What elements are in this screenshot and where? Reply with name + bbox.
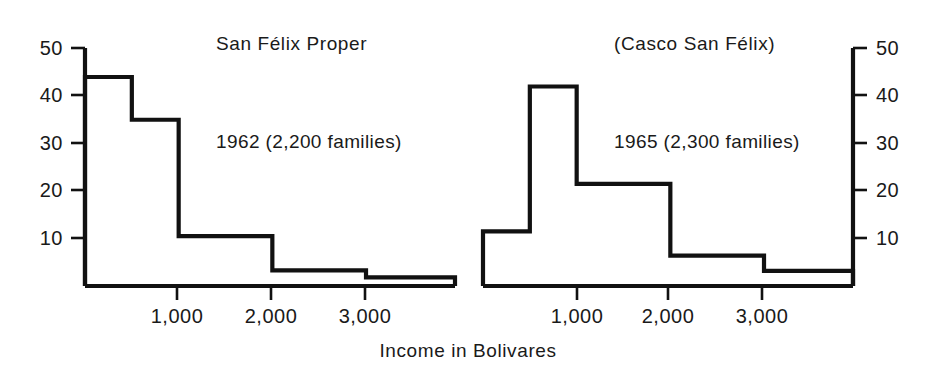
right-y-tick-label-20: 20 <box>876 179 899 201</box>
x-axis-title: Income in Bolivares <box>379 340 556 361</box>
left-panel-title: San Félix Proper <box>216 33 367 54</box>
left-y-tick-label-20: 20 <box>40 179 63 201</box>
right-x-tick-label-2000: 2,000 <box>642 305 695 327</box>
left-y-tick-label-30: 30 <box>40 132 63 154</box>
left-y-tick-label-50: 50 <box>40 37 63 59</box>
income-distribution-figure: San Félix Proper 1962 (2,200 families) 5… <box>0 0 936 369</box>
right-y-tick-label-40: 40 <box>876 84 899 106</box>
left-y-tick-label-10: 10 <box>40 227 63 249</box>
left-x-tick-label-1000: 1,000 <box>151 305 204 327</box>
left-y-tick-label-40: 40 <box>40 84 63 106</box>
left-x-tick-label-3000: 3,000 <box>339 305 392 327</box>
right-panel-annotation: 1965 (2,300 families) <box>614 131 800 152</box>
right-y-tick-label-50: 50 <box>876 37 899 59</box>
left-panel: San Félix Proper 1962 (2,200 families) 5… <box>40 33 455 327</box>
left-step-histogram <box>85 77 455 286</box>
chart-canvas: San Félix Proper 1962 (2,200 families) 5… <box>0 0 936 369</box>
right-panel: (Casco San Félix) 1965 (2,300 families) … <box>483 33 899 327</box>
right-x-tick-label-1000: 1,000 <box>551 305 604 327</box>
right-step-histogram <box>483 87 853 287</box>
left-panel-annotation: 1962 (2,200 families) <box>216 131 402 152</box>
left-x-tick-label-2000: 2,000 <box>245 305 298 327</box>
right-y-tick-label-10: 10 <box>876 227 899 249</box>
right-x-tick-label-3000: 3,000 <box>736 305 789 327</box>
right-y-tick-label-30: 30 <box>876 132 899 154</box>
right-panel-title: (Casco San Félix) <box>614 33 775 54</box>
